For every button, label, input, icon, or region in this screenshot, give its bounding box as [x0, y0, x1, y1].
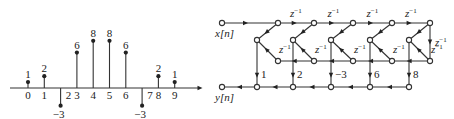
low-node [389, 58, 394, 63]
stem-sample: −32 [53, 88, 72, 119]
value-label: 1 [172, 68, 178, 80]
n-tick-label: 0 [25, 89, 31, 101]
arrow-icon [310, 85, 315, 89]
stem-sample: 66 [123, 39, 129, 101]
n-tick-label: 4 [90, 89, 96, 101]
arrow-icon [407, 73, 411, 78]
signal-flow-graph: z−1z−1z−1z−1z−1z−11z−12z−1−3z−16z−18x[n]… [214, 7, 447, 103]
top-node [350, 20, 355, 25]
gain-label: 2 [297, 68, 303, 80]
arrow-icon [273, 85, 278, 89]
value-label: 1 [25, 68, 31, 80]
gain-label: 1 [261, 68, 267, 80]
stem-sample: 21 [42, 62, 48, 101]
top-delay-label: z−1 [366, 7, 379, 19]
stem-sample: 28 [156, 62, 162, 101]
mid-node [290, 37, 295, 42]
value-label: 8 [107, 27, 113, 39]
mid-node [254, 37, 259, 42]
arrow-icon [237, 85, 242, 89]
mid-node [406, 37, 411, 42]
mid-node [367, 37, 372, 42]
value-label: 8 [90, 27, 96, 39]
n-tick-label: 5 [107, 89, 113, 101]
n-tick-label: 9 [172, 89, 178, 101]
stem-sample: 19 [172, 68, 178, 101]
stem-dot [124, 51, 128, 55]
low-delay-label: z−1 [353, 43, 366, 55]
value-label: −3 [134, 108, 146, 119]
figure-svg: 1021−3263848566−372819 z−1z−1z−1z−1z−1z−… [0, 0, 454, 119]
arrow-icon [292, 21, 297, 25]
stem-sample: 85 [107, 27, 113, 101]
n-tick-label: 1 [42, 89, 48, 101]
arrow-icon [368, 73, 372, 78]
n-tick-label: 7 [147, 89, 153, 101]
top-node [389, 20, 394, 25]
low-node [427, 58, 432, 63]
top-delay-label: z−1 [327, 7, 340, 19]
mid-node [328, 37, 333, 42]
bottom-node [367, 84, 372, 89]
top-delay-label: z−1 [404, 7, 417, 19]
arrow-icon [329, 21, 334, 25]
gain-label: 8 [413, 68, 419, 80]
low-delay-label: z−1 [278, 43, 291, 55]
low-node [275, 58, 280, 63]
stem-dot [91, 39, 95, 43]
n-tick-label: 6 [123, 89, 129, 101]
low-node [311, 58, 316, 63]
value-label: 2 [42, 62, 48, 74]
low-delay-label: z−1 [314, 43, 327, 55]
value-label: −3 [53, 108, 65, 119]
stem-sample: 84 [90, 27, 96, 101]
n-tick-label: 8 [156, 89, 162, 101]
top-node [427, 20, 432, 25]
stem-dot [42, 74, 46, 78]
bottom-node [254, 84, 259, 89]
bottom-node [328, 84, 333, 89]
stem-dot [156, 74, 160, 78]
gain-label: 6 [374, 68, 380, 80]
arrow-icon [348, 85, 353, 89]
bottom-node [290, 84, 295, 89]
low-delay-label: z−1 [392, 43, 405, 55]
output-label: y[n] [214, 91, 234, 103]
arrow-icon [329, 73, 333, 78]
arrow-icon [243, 21, 248, 25]
stem-sample: −37 [134, 88, 153, 119]
bottom-node [406, 84, 411, 89]
gain-label: −3 [335, 68, 347, 80]
low-delay-label: z−1 [430, 43, 443, 55]
stem-dot [173, 80, 177, 84]
top-node [311, 20, 316, 25]
stem-dot [26, 80, 30, 84]
input-node [219, 20, 224, 25]
value-label: 2 [156, 62, 162, 74]
value-label: 6 [123, 39, 129, 51]
stem-sample: 10 [25, 68, 31, 101]
figure: 1021−3263848566−372819 z−1z−1z−1z−1z−1z−… [0, 0, 454, 119]
arrow-icon [387, 85, 392, 89]
top-delay-label: z−1 [289, 7, 302, 19]
stem-dot [107, 39, 111, 43]
arrow-icon [291, 73, 295, 78]
input-label: x[n] [214, 27, 234, 39]
low-node [350, 58, 355, 63]
n-tick-label: 2 [66, 89, 72, 101]
arrow-icon [407, 21, 412, 25]
stem-dot [75, 51, 79, 55]
value-label: 6 [74, 39, 80, 51]
stem-plot: 1021−3263848566−372819 [10, 27, 203, 119]
output-node [219, 84, 224, 89]
axis-arrow-icon [198, 86, 203, 90]
top-node [275, 20, 280, 25]
stem-sample: 63 [74, 39, 80, 101]
arrow-icon [368, 21, 373, 25]
n-tick-label: 3 [74, 89, 80, 101]
arrow-icon [255, 73, 259, 78]
